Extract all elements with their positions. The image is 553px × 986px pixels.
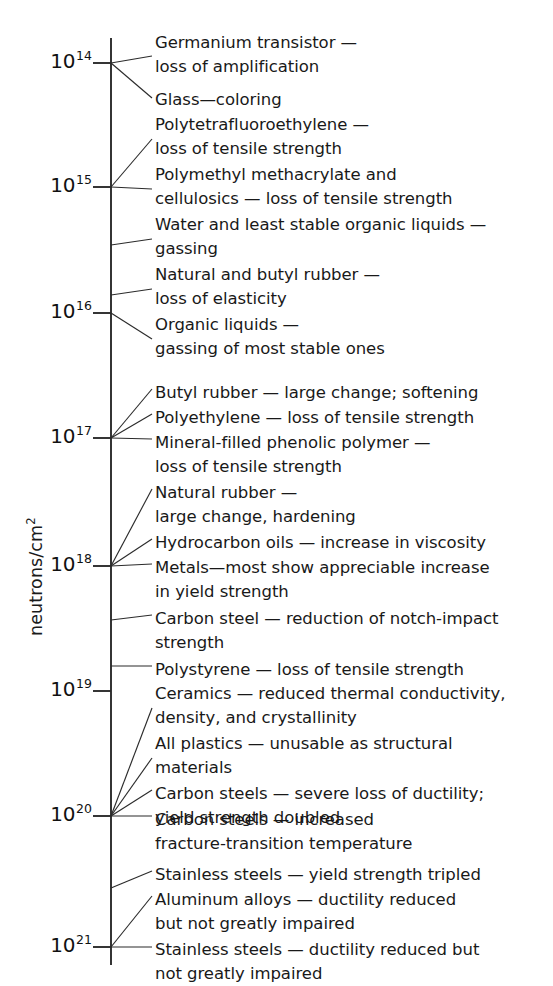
annotation-organic-liquids: Organic liquids — gassing of most stable… [155,313,385,361]
annotation-all-plastics: All plastics — unusable as structural ma… [155,732,453,780]
annotation-hydrocarbon-oils: Hydrocarbon oils — increase in viscosity [155,531,486,555]
annotation-ptfe: Polytetrafluoroethylene — loss of tensil… [155,113,369,161]
y-tick-label-1e17: 1017 [50,424,92,448]
annotation-polystyrene: Polystyrene — loss of tensile strength [155,658,464,682]
annotation-aluminum-alloys: Aluminum alloys — ductility reduced but … [155,888,456,936]
annotation-metals-yield: Metals—most show appreciable increase in… [155,556,490,604]
leader-line-ptfe [111,139,152,187]
y-tick-label-1e14: 1014 [50,49,92,73]
leader-line-carbon-steels-ductility [111,790,152,816]
leader-line-aluminum-alloys [111,896,152,947]
tick-base: 10 [50,552,75,576]
annotation-glass-coloring: Glass—coloring [155,88,282,112]
y-tick-label-1e15: 1015 [50,173,92,197]
annotation-mineral-filled-phenolic: Mineral-filled phenolic polymer — loss o… [155,431,430,479]
tick-exponent: 18 [76,551,92,566]
annotation-pmma-cellulosics: Polymethyl methacrylate and cellulosics … [155,163,452,211]
tick-exponent: 21 [76,932,92,947]
y-tick-label-1e18: 1018 [50,552,92,576]
annotation-germanium-transistor: Germanium transistor — loss of amplifica… [155,31,357,79]
y-axis-title-text: neutrons/cm [26,525,46,636]
tick-exponent: 19 [76,676,92,691]
y-tick-label-1e16: 1016 [50,299,92,323]
leader-line-natural-butyl-rubber [111,289,152,295]
leader-line-ceramics [111,708,152,816]
leader-line-all-plastics [111,758,152,816]
annotation-polyethylene: Polyethylene — loss of tensile strength [155,406,474,430]
tick-exponent: 15 [76,172,92,187]
annotation-butyl-rubber: Butyl rubber — large change; softening [155,381,478,405]
leader-line-metals-yield [111,564,152,566]
y-tick-label-1e19: 1019 [50,677,92,701]
leader-line-natural-rubber [111,489,152,566]
leader-line-germanium-transistor [111,56,152,63]
leader-line-organic-liquids [111,313,152,339]
annotation-water-organic-liquids: Water and least stable organic liquids —… [155,213,486,261]
leader-line-pmma-cellulosics [111,187,152,189]
annotation-natural-butyl-rubber: Natural and butyl rubber — loss of elast… [155,263,380,311]
annotation-carbon-steel-notch: Carbon steel — reduction of notch-impact… [155,607,499,655]
tick-exponent: 16 [76,298,92,313]
leader-line-glass-coloring [111,63,152,98]
tick-base: 10 [50,49,75,73]
annotation-natural-rubber: Natural rubber — large change, hardening [155,481,356,529]
leader-line-mineral-filled-phenolic [111,438,152,439]
annotation-stainless-yield: Stainless steels — yield strength triple… [155,863,481,887]
tick-exponent: 20 [76,801,92,816]
annotation-stainless-ductility: Stainless steels — ductility reduced but… [155,938,479,986]
tick-base: 10 [50,802,75,826]
leader-line-water-organic-liquids [111,239,152,245]
tick-base: 10 [50,933,75,957]
leader-line-polyethylene [111,414,152,438]
tick-base: 10 [50,173,75,197]
y-axis-title-exponent: 2 [24,517,38,524]
y-axis-title: neutrons/cm2 [26,517,46,636]
leader-line-hydrocarbon-oils [111,539,152,566]
leader-line-stainless-yield [111,871,152,888]
tick-base: 10 [50,299,75,323]
leader-line-butyl-rubber [111,389,152,438]
tick-base: 10 [50,424,75,448]
tick-exponent: 17 [76,423,92,438]
y-tick-label-1e21: 1021 [50,933,92,957]
leader-line-carbon-steel-notch [111,615,152,620]
annotation-ceramics: Ceramics — reduced thermal conductivity,… [155,682,505,730]
y-tick-label-1e20: 1020 [50,802,92,826]
tick-base: 10 [50,677,75,701]
annotation-carbon-steels-fracture: Carbon steels — increased fracture-trans… [155,808,412,856]
tick-exponent: 14 [76,48,92,63]
